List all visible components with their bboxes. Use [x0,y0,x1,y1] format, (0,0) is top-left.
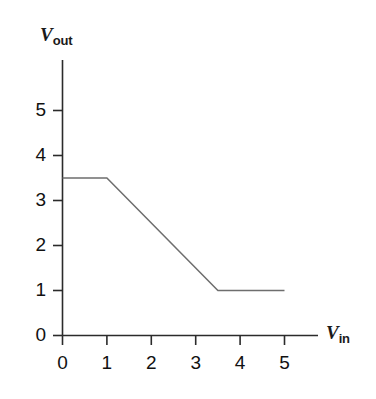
y-tick-label: 5 [26,99,46,121]
x-axis-title: Vin [326,322,350,344]
y-axis-title: Vout [40,24,72,46]
plot-canvas [0,0,376,399]
y-tick-label: 3 [26,189,46,211]
x-tick-label: 0 [53,352,73,374]
x-tick-label: 3 [186,352,206,374]
chart-figure: Vout Vin 5 4 3 2 1 0 0 1 2 3 4 5 [0,0,376,399]
y-tick-label: 0 [26,324,46,346]
x-axis-title-subscript: in [339,331,350,346]
x-axis-title-symbol: V [326,322,339,343]
x-tick-label: 5 [275,352,295,374]
y-axis-title-subscript: out [53,33,73,48]
y-tick-label: 4 [26,144,46,166]
data-series-line [63,178,285,291]
y-tick-label: 1 [26,279,46,301]
y-tick-label: 2 [26,234,46,256]
x-tick-label: 1 [97,352,117,374]
x-axis-tick-marks [63,336,285,346]
x-tick-label: 4 [230,352,250,374]
y-axis-tick-marks [53,111,63,336]
y-axis-title-symbol: V [40,24,53,45]
x-tick-label: 2 [141,352,161,374]
